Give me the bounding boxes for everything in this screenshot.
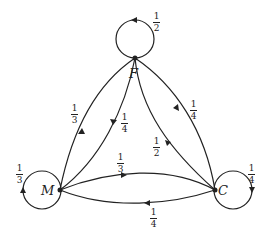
edge-C-F [135, 58, 215, 190]
prob-F-F: 12 [153, 12, 160, 33]
prob-C-M: 14 [150, 208, 157, 229]
arrow-F-C [173, 104, 179, 111]
edge-M-C [60, 173, 215, 190]
diagram-graphics [0, 0, 270, 243]
arrow-loop-F [131, 17, 137, 23]
loop-F [116, 20, 154, 58]
node-M-dot [58, 188, 63, 193]
arrow-C-M [144, 200, 150, 206]
prob-F-C: 14 [190, 100, 197, 121]
node-C-dot [213, 188, 218, 193]
arrow-loop-C [249, 187, 255, 193]
node-F-dot [133, 56, 138, 61]
edge-F-C [135, 58, 215, 190]
prob-M-C: 13 [117, 153, 124, 174]
arrow-F-M [110, 119, 117, 125]
prob-C-F: 12 [153, 137, 160, 158]
prob-F-M: 14 [121, 113, 128, 134]
prob-M-M: 13 [16, 164, 23, 185]
edge-C-M [60, 190, 215, 203]
transition-diagram: F M C 12 13 14 13 14 14 12 13 14 [0, 0, 270, 243]
node-C-label: C [218, 184, 228, 197]
arrow-loop-M [20, 187, 26, 193]
node-M-label: M [41, 184, 54, 197]
node-F-label: F [129, 67, 138, 80]
prob-C-C: 14 [248, 164, 255, 185]
prob-M-F: 13 [71, 104, 78, 125]
